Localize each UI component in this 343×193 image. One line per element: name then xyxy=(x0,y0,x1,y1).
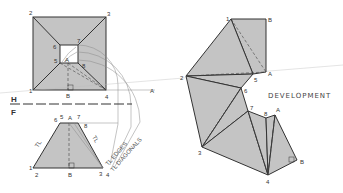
dev-label-b-top: B xyxy=(268,17,272,23)
front-label-a: A xyxy=(68,115,72,121)
label-3: 3 xyxy=(107,11,111,17)
dev-label-a-bottom: A xyxy=(276,107,280,113)
top-view xyxy=(33,17,106,90)
label-h: H xyxy=(11,95,17,104)
arc-label-a: A xyxy=(150,88,154,94)
front-view xyxy=(33,123,103,168)
front-label-3: 3 xyxy=(99,171,103,177)
dev-label-a-top: A xyxy=(268,71,272,77)
front-label-8: 8 xyxy=(84,123,88,129)
development-diagram: 1 2 3 4 5 6 7 8 A B A H F 6 5 A 7 8 1 2 … xyxy=(0,0,343,193)
tl-left-label: TL xyxy=(34,139,43,149)
front-label-5: 5 xyxy=(60,114,64,120)
development-title: DEVELOPMENT xyxy=(268,92,331,100)
front-label-1: 1 xyxy=(29,165,33,171)
dev-label-3: 3 xyxy=(198,150,202,156)
dev-label-5: 5 xyxy=(254,77,258,83)
label-a: A xyxy=(65,57,69,63)
label-1: 1 xyxy=(29,88,33,94)
dev-label-7: 7 xyxy=(250,105,254,111)
dev-label-8: 8 xyxy=(264,111,268,117)
label-f: F xyxy=(11,108,16,117)
dev-label-b-bottom: B xyxy=(300,159,304,165)
label-2: 2 xyxy=(29,10,33,16)
label-b: B xyxy=(66,93,70,99)
label-4: 4 xyxy=(105,94,109,100)
front-label-b: B xyxy=(68,172,72,178)
front-label-7: 7 xyxy=(77,114,81,120)
front-label-4: 4 xyxy=(106,172,110,178)
front-label-2: 2 xyxy=(35,172,39,178)
tl-right-label: TL xyxy=(91,135,100,145)
dev-label-4: 4 xyxy=(266,179,270,185)
dev-label-6: 6 xyxy=(244,88,248,94)
front-label-6: 6 xyxy=(54,117,58,123)
